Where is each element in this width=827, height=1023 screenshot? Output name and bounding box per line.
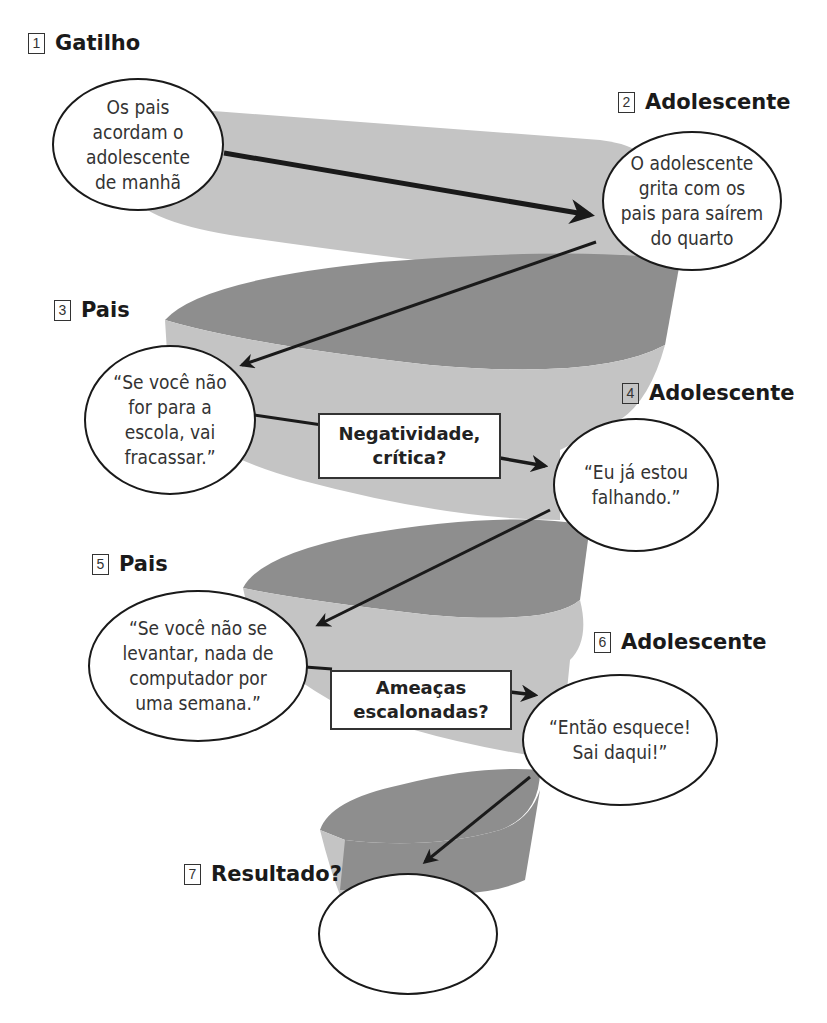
bubble-step-1: Os pais acordam o adolescente de manhã bbox=[52, 78, 224, 211]
step-6-label: 6 Adolescente bbox=[594, 630, 767, 654]
step-title: Adolescente bbox=[649, 381, 795, 405]
step-number-box: 5 bbox=[92, 554, 109, 575]
step-title: Adolescente bbox=[621, 630, 767, 654]
bubble-step-6: “Então esquece! Sai daqui!” bbox=[522, 674, 718, 806]
step-2-label: 2 Adolescente bbox=[618, 90, 791, 114]
step-title: Pais bbox=[119, 552, 168, 576]
arrow-icon bbox=[305, 667, 332, 669]
bubble-step-7-result bbox=[318, 873, 498, 995]
step-number-box: 4 bbox=[622, 383, 639, 404]
step-4-label: 4 Adolescente bbox=[622, 381, 795, 405]
bubble-step-2: O adolescente grita com os pais para saí… bbox=[602, 131, 782, 271]
step-3-label: 3 Pais bbox=[54, 298, 130, 322]
step-number-box: 6 bbox=[594, 632, 611, 653]
step-number-box: 7 bbox=[184, 864, 201, 885]
bubble-step-5: “Se você não se levantar, nada de comput… bbox=[88, 590, 308, 742]
step-number-box: 3 bbox=[54, 300, 71, 321]
callout-escalating-threats: Ameaças escalonadas? bbox=[330, 670, 512, 730]
step-title: Gatilho bbox=[55, 31, 140, 55]
step-5-label: 5 Pais bbox=[92, 552, 168, 576]
bubble-step-3: “Se você não for para a escola, vai frac… bbox=[84, 345, 256, 495]
step-number-box: 1 bbox=[28, 33, 45, 54]
step-title: Resultado? bbox=[211, 862, 342, 886]
step-1-label: 1 Gatilho bbox=[28, 31, 140, 55]
step-number-box: 2 bbox=[618, 92, 635, 113]
step-7-label: 7 Resultado? bbox=[184, 862, 342, 886]
step-title: Adolescente bbox=[645, 90, 791, 114]
callout-negativity-criticism: Negatividade, crítica? bbox=[318, 413, 501, 479]
step-title: Pais bbox=[81, 298, 130, 322]
bubble-step-4: “Eu já estou falhando.” bbox=[553, 418, 719, 552]
